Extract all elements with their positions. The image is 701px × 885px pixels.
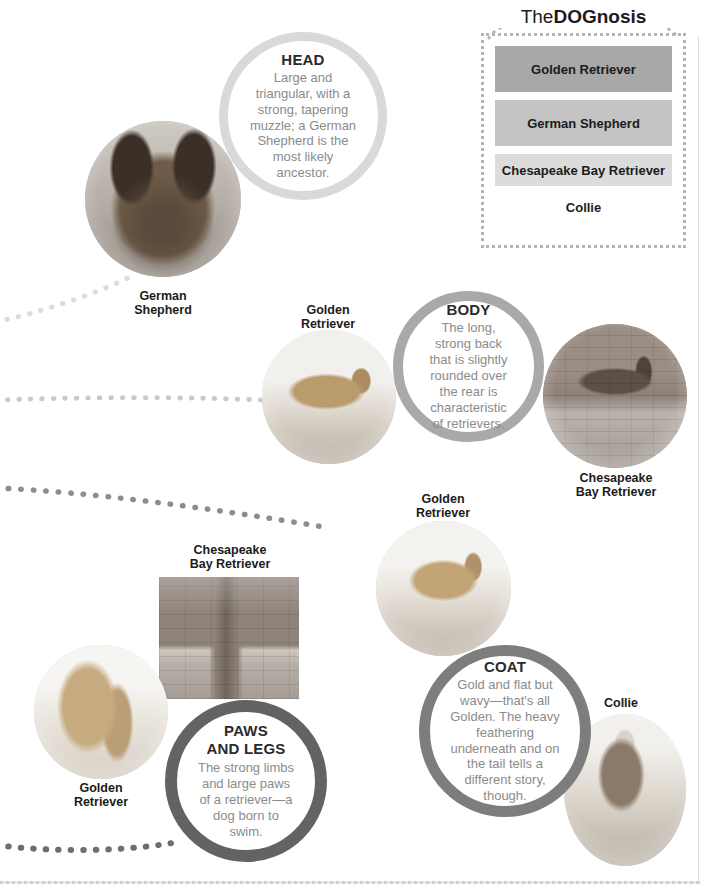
caption-chesapeake-paws: Chesapeake Bay Retriever bbox=[156, 543, 304, 572]
legend-bar-chesapeake-bay-retriever[interactable]: Chesapeake Bay Retriever bbox=[495, 154, 672, 186]
callout-coat: COAT Gold and flat but wavy—that's all G… bbox=[419, 645, 591, 817]
right-margin-rule bbox=[698, 36, 699, 882]
legend-bar-collie[interactable]: Collie bbox=[495, 194, 672, 220]
callout-body-title: BODY bbox=[446, 301, 490, 318]
golden-retriever-legs-photo bbox=[34, 645, 168, 779]
legend-bar-label: Chesapeake Bay Retriever bbox=[502, 163, 665, 178]
caption-golden-retriever-paws: Golden Retriever bbox=[28, 781, 174, 810]
golden-retriever-standing-photo bbox=[262, 330, 396, 464]
callout-head-title: HEAD bbox=[281, 51, 324, 68]
callout-body: BODY The long, strong back that is sligh… bbox=[393, 291, 544, 442]
legend-bar-label: Collie bbox=[566, 200, 601, 215]
legend-title-part-dog: DOG bbox=[553, 6, 596, 27]
legend-bar-german-shepherd[interactable]: German Shepherd bbox=[495, 100, 672, 146]
callout-paws-and-legs: PAWS AND LEGS The strong limbs and large… bbox=[165, 700, 327, 862]
legend-bar-label: Golden Retriever bbox=[531, 62, 636, 77]
callout-body-body: The long, strong back that is slightly r… bbox=[423, 320, 514, 431]
caption-golden-retriever-body: Golden Retriever bbox=[252, 303, 404, 332]
callout-head-body: Large and triangular, with a strong, tap… bbox=[248, 70, 358, 181]
legend-title: TheDOGnosis bbox=[481, 6, 686, 28]
golden-retriever-coat-photo bbox=[376, 521, 511, 656]
callout-coat-body: Gold and flat but wavy—that's all Golden… bbox=[450, 677, 560, 804]
chesapeake-bay-retriever-on-steps-photo bbox=[543, 324, 687, 468]
legend-title-part-the: The bbox=[521, 6, 554, 27]
chesapeake-bay-retriever-legs-photo bbox=[159, 577, 299, 699]
legend-bar-label: German Shepherd bbox=[527, 116, 640, 131]
callout-paws-body: The strong limbs and large paws of a ret… bbox=[197, 760, 295, 839]
caption-golden-retriever-coat: Golden Retriever bbox=[372, 492, 514, 521]
bottom-hairline bbox=[0, 881, 701, 884]
legend-box: Golden Retriever German Shepherd Chesape… bbox=[481, 33, 686, 248]
caption-german-shepherd: German Shepherd bbox=[80, 289, 246, 318]
callout-coat-title: COAT bbox=[484, 658, 526, 675]
caption-chesapeake-body: Chesapeake Bay Retriever bbox=[542, 471, 690, 500]
callout-head: HEAD Large and triangular, with a strong… bbox=[219, 32, 387, 200]
german-shepherd-head-photo bbox=[85, 121, 241, 277]
callout-paws-title-line-1: PAWS bbox=[224, 723, 268, 740]
legend-title-part-nosis: nosis bbox=[597, 6, 647, 27]
infographic-page: Golden Retriever German Shepherd Chesape… bbox=[0, 0, 701, 885]
callout-paws-title-line-2: AND LEGS bbox=[206, 741, 285, 758]
legend-bar-golden-retriever[interactable]: Golden Retriever bbox=[495, 46, 672, 92]
